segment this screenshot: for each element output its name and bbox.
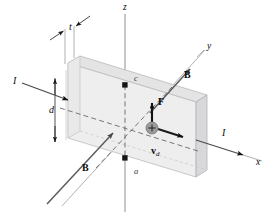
terminal-dot-a xyxy=(122,155,127,160)
magnetic-field-lower-line xyxy=(47,133,113,204)
vector-label-f: F xyxy=(158,97,164,107)
thickness-arrow-right xyxy=(76,16,90,26)
y-axis-head xyxy=(197,50,204,57)
axis-label-x: x xyxy=(256,158,260,168)
slab-right-face xyxy=(196,95,207,177)
dimension-label-t: t xyxy=(69,22,72,32)
current-label-in: I xyxy=(13,76,16,86)
dimension-label-d: d xyxy=(49,105,54,115)
current-in-line xyxy=(22,83,68,100)
depth-dimension xyxy=(55,70,66,142)
node-label-a: a xyxy=(134,167,138,176)
vector-label-b-upper: B xyxy=(184,70,191,80)
y-axis-head-line xyxy=(197,50,204,57)
diagram-canvas xyxy=(0,0,272,216)
hall-effect-figure: z y x t d c a I I B B F vd xyxy=(0,0,272,216)
magnetic-field-lower-arrow xyxy=(47,133,113,204)
slab-left-face xyxy=(68,56,80,138)
terminal-dot-c xyxy=(122,82,127,87)
vector-label-vd-subscript: d xyxy=(156,150,160,158)
vector-label-vd: vd xyxy=(151,141,160,157)
node-label-c: c xyxy=(134,74,138,83)
axis-label-y: y xyxy=(207,42,211,52)
current-in-arrow xyxy=(22,83,68,100)
positive-charge-carrier xyxy=(146,122,158,134)
axis-label-z: z xyxy=(123,3,127,13)
vector-label-b-lower: B xyxy=(82,163,89,173)
current-label-out: I xyxy=(222,128,225,138)
thickness-arrow-left xyxy=(50,31,64,40)
